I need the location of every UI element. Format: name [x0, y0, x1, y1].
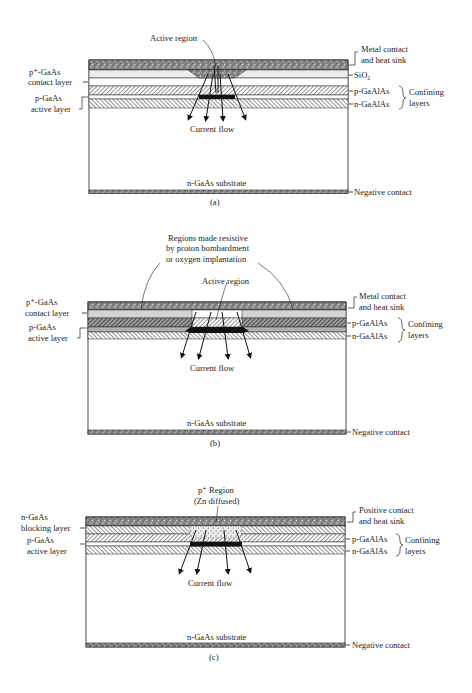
- p-plus-region-label-line1: p⁺ Region: [198, 485, 235, 495]
- p-gaalas-label: p-GaAlAs: [352, 318, 388, 328]
- positive-contact-label-line2: and heat sink: [359, 516, 405, 526]
- active-layer-label-line1: p-GaAs: [35, 93, 62, 103]
- confining-label-line2: layers: [405, 546, 426, 556]
- positive-contact-pointer: [347, 512, 356, 522]
- active-layer-label-line1: p-GaAs: [27, 535, 54, 545]
- caption-a: (a): [210, 197, 220, 207]
- substrate-label: n-GaAs substrate: [187, 178, 247, 188]
- contact-layer-label-line2: contact layer: [28, 77, 72, 87]
- confining-label-line2: layers: [408, 330, 429, 340]
- n-gaalas-layer: [88, 332, 346, 339]
- resistive-label-line1: Regions made resistive: [168, 233, 248, 243]
- current-flow-label: Current flow: [190, 363, 235, 373]
- confining-brace: [396, 534, 403, 556]
- n-gaalas-label: n-GaAlAs: [352, 546, 388, 556]
- active-region-label: Active region: [150, 33, 198, 43]
- n-gaalas-label: n-GaAlAs: [354, 99, 390, 109]
- current-flow-label: Current flow: [190, 124, 235, 134]
- confining-label-line1: Confining: [405, 535, 441, 545]
- negative-contact-layer: [89, 190, 348, 194]
- confining-label-line2: layers: [409, 98, 430, 108]
- n-gaalas-layer: [86, 546, 345, 554]
- active-layer-label-line2: active layer: [31, 104, 71, 114]
- resistive-label-line3: or oxygen implantation: [166, 254, 247, 264]
- current-flow-label: Current flow: [188, 578, 233, 588]
- n-gaalas-layer: [89, 99, 348, 108]
- laser-structures-figure: Active region Current flow n-GaAs substr…: [0, 0, 472, 693]
- confining-brace: [399, 86, 406, 109]
- substrate-label: n-GaAs substrate: [187, 632, 247, 642]
- contact-layer-label-line1: p⁺-GaAs: [26, 297, 58, 307]
- active-region: [190, 542, 242, 547]
- p-plus-region-label-line2: (Zn diffused): [194, 496, 240, 506]
- active-layer-pointer: [79, 97, 88, 109]
- metal-contact-label-line2: and heat sink: [359, 302, 405, 312]
- caption-c: (c): [209, 652, 219, 662]
- confining-brace: [398, 318, 405, 342]
- substrate-label: n-GaAs substrate: [187, 418, 247, 428]
- p-gaalas-label: p-GaAlAs: [354, 86, 390, 96]
- panel-b: Regions made resistive by proton bombard…: [25, 233, 444, 448]
- metal-contact-pointer: [349, 52, 358, 65]
- blocking-layer-label-line1: n-GaAs: [21, 512, 48, 522]
- active-layer-label-line2: active layer: [27, 546, 67, 556]
- positive-contact-layer: [86, 517, 345, 526]
- metal-contact-label-line1: Metal contact: [359, 291, 407, 301]
- contact-layer-label-line1: p⁺-GaAs: [29, 67, 61, 77]
- metal-contact-label-line1: Metal contact: [361, 44, 409, 54]
- active-layer-label-line1: p-GaAs: [29, 322, 56, 332]
- sio2-label: SiO₂: [354, 70, 370, 80]
- negative-contact-layer: [88, 430, 346, 434]
- caption-b: (b): [210, 438, 220, 448]
- metal-contact-layer: [88, 302, 346, 310]
- metal-contact-label-line2: and heat sink: [361, 55, 407, 65]
- active-region: [185, 327, 249, 333]
- active-layer-label-line2: active layer: [28, 333, 68, 343]
- panel-a: Active region Current flow n-GaAs substr…: [28, 33, 445, 207]
- active-layer-pointer: [77, 328, 87, 338]
- confining-label-line1: Confining: [409, 87, 445, 97]
- negative-contact-label: Negative contact: [352, 427, 411, 437]
- zn-diffused-p-plus-region: [190, 526, 242, 538]
- panel-c: p⁺ Region (Zn diffused) Current flow n-G…: [21, 485, 441, 662]
- active-region-label: Active region: [202, 276, 250, 286]
- negative-contact-label: Negative contact: [352, 640, 411, 650]
- n-gaalas-label: n-GaAlAs: [352, 331, 388, 341]
- blocking-layer-label-line2: blocking layer: [21, 523, 71, 533]
- contact-layer-label-line2: contact layer: [25, 308, 69, 318]
- metal-contact-pointer: [348, 297, 357, 308]
- negative-contact-layer: [86, 643, 345, 647]
- confining-label-line1: Confining: [408, 319, 444, 329]
- negative-contact-label: Negative contact: [354, 187, 413, 197]
- p-gaalas-label: p-GaAlAs: [352, 534, 388, 544]
- conducting-window-cladding: [192, 318, 242, 327]
- resistive-label-line2: by proton bombardment: [166, 243, 250, 253]
- positive-contact-label-line1: Positive contact: [359, 505, 414, 515]
